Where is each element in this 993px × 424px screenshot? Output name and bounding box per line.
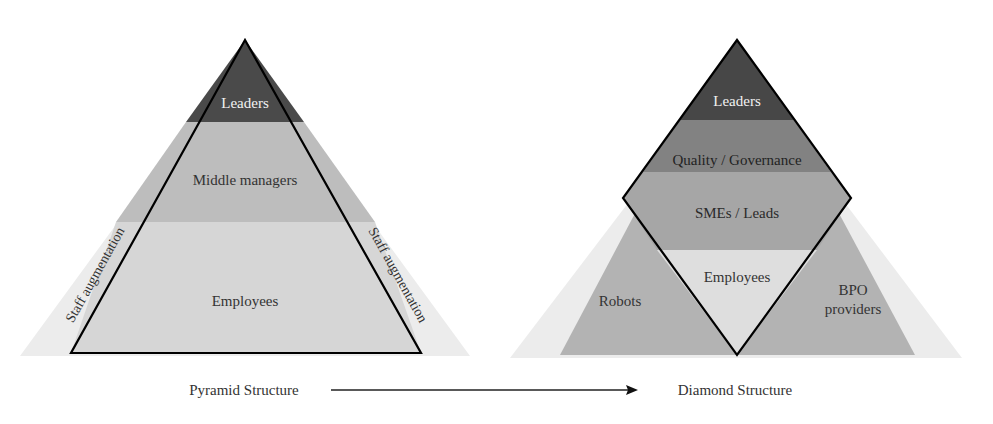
diamond-label-smes-leads: SMEs / Leads bbox=[695, 205, 779, 221]
pyramid-caption: Pyramid Structure bbox=[189, 382, 299, 398]
pyramid-label-employees: Employees bbox=[212, 293, 279, 309]
pyramid-label-middle-managers: Middle managers bbox=[193, 172, 298, 188]
pyramid-structure: Leaders Middle managers Employees Staff … bbox=[20, 40, 470, 356]
diamond-outer-label-bpo: BPO bbox=[838, 282, 867, 298]
diamond-outer-label-robots: Robots bbox=[599, 293, 642, 309]
diamond-outer-label-providers: providers bbox=[825, 301, 882, 317]
diamond-caption: Diamond Structure bbox=[678, 382, 793, 398]
diamond-label-leaders: Leaders bbox=[713, 93, 761, 109]
pyramid-to-diamond-diagram: Leaders Middle managers Employees Staff … bbox=[0, 0, 993, 424]
transition-arrow bbox=[331, 385, 638, 395]
diamond-structure: Leaders Quality / Governance SMEs / Lead… bbox=[510, 40, 962, 358]
pyramid-label-leaders: Leaders bbox=[221, 95, 269, 111]
pyramid-layer-employees bbox=[71, 222, 421, 353]
diamond-label-quality-governance: Quality / Governance bbox=[672, 152, 801, 168]
diamond-label-employees: Employees bbox=[704, 269, 771, 285]
